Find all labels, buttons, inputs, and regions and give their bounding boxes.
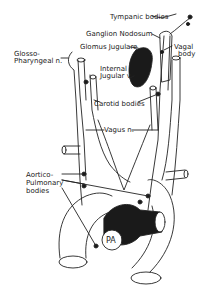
label-vagus-n: Vagus n. bbox=[104, 127, 134, 134]
diagram: Tympanic bodies Ganglion Nodosum Glomus … bbox=[0, 0, 208, 298]
label-carotid-bodies: Carotid bodies bbox=[94, 101, 145, 108]
aorta-left-opening bbox=[59, 256, 87, 268]
label-pharyngeal-n: Pharyngeal n. bbox=[14, 58, 62, 65]
label-jugular-v: Jugular v. bbox=[100, 73, 133, 80]
aorta-right-opening bbox=[131, 272, 161, 284]
label-bodies: bodies bbox=[26, 188, 49, 195]
label-pulmonary: Pulmonary bbox=[26, 180, 63, 187]
label-tympanic-bodies: Tympanic bodies bbox=[110, 14, 168, 21]
glomus-jugulare-mass bbox=[129, 48, 152, 87]
label-pa: PA bbox=[106, 237, 116, 244]
label-ganglion-nodosum: Ganglion Nodosum bbox=[86, 31, 153, 38]
label-vagal-body: body bbox=[178, 51, 195, 58]
label-aortico: Aortico- bbox=[26, 172, 53, 179]
label-glomus-jugulare: Glomus Jugulare bbox=[80, 44, 137, 51]
